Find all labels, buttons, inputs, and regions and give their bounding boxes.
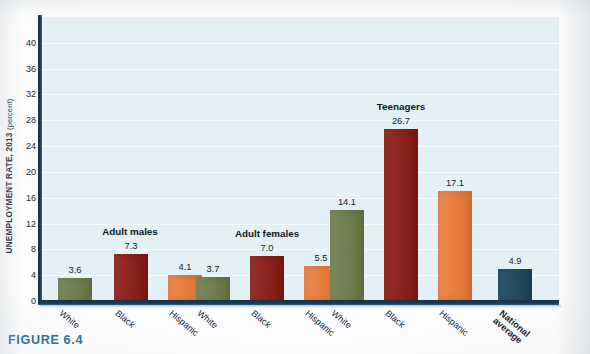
bar-value-label: 4.9 [490,256,540,266]
bar-white [196,277,230,301]
x-axis-tick-label: Hispanic [168,308,201,338]
gridline [42,172,559,173]
y-axis-tick-label: 32 [2,89,36,99]
x-axis-tick-label: Black [384,308,407,330]
bar-black [384,129,418,301]
bar-national-average [498,269,532,301]
bar-value-label: 3.6 [50,265,100,275]
x-axis-line [38,300,559,305]
bar-black [114,254,148,301]
bar-value-label: 17.1 [430,178,480,188]
x-axis-shadow [40,305,561,308]
x-axis-tick-label: Nationalaverage [491,308,532,347]
bar-white [330,210,364,301]
y-axis-tick-label: 40 [2,38,36,48]
y-axis-tick-label: 36 [2,64,36,74]
gridline [42,120,559,121]
group-label: Teenagers [341,101,461,112]
plot-area: 3.67.34.1Adult males3.77.05.5Adult femal… [42,17,559,301]
group-label: Adult females [207,228,327,239]
y-axis-tick-label: 0 [2,296,36,306]
x-axis-tick-label: Black [250,308,273,330]
y-axis-tick-label: 12 [2,219,36,229]
y-axis-tick-label: 16 [2,193,36,203]
y-axis-tick-label: 28 [2,115,36,125]
group-label: Adult males [70,226,190,237]
y-axis-tick-label: 4 [2,270,36,280]
bar-value-label: 3.7 [188,264,238,274]
gridline [42,224,559,225]
gridline [42,94,559,95]
figure-6-4: UNEMPLOYMENT RATE, 2013 (percent) 048121… [0,0,590,354]
x-axis-tick-label: White [58,308,82,330]
y-axis-line [38,15,42,304]
y-axis-tick-label: 20 [2,167,36,177]
y-axis-tick-label: 8 [2,244,36,254]
gridline [42,69,559,70]
x-axis-tick-label: White [196,308,220,330]
bar-black [250,256,284,301]
bar-value-label: 7.0 [242,243,292,253]
gridline [42,43,559,44]
x-axis-tick-label: Hispanic [438,308,471,338]
gridline [42,198,559,199]
bar-hispanic [438,191,472,301]
x-axis-tick-label: Black [114,308,137,330]
bar-white [58,278,92,301]
bar-value-label: 26.7 [376,116,426,126]
y-axis-tick-label: 24 [2,141,36,151]
figure-caption: FIGURE 6.4 [8,333,83,347]
gridline [42,146,559,147]
bar-value-label: 14.1 [322,197,372,207]
bar-value-label: 7.3 [106,241,156,251]
y-axis-ticks: 0481216202428323640 [0,0,36,320]
